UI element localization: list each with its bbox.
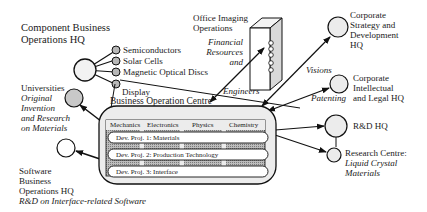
label-line: Invention [21,103,70,113]
title-line: Operations [193,23,248,33]
title-line: Operations HQ [21,34,110,46]
discipline-mechanics: Mechanics [110,120,140,130]
title-line: Office Imaging [193,13,248,23]
product-solar-cells: Solar Cells [123,56,163,66]
discipline-electronics: Electronics [147,120,179,130]
label-line: Corporate [350,10,399,20]
discipline-physics: Physics [192,120,213,130]
label-line: R&D on Interface-related Software [19,196,146,206]
universities-label: Universities Original Invention and Rese… [21,83,70,133]
flow-line: and [205,57,243,67]
legal-node [330,75,348,93]
flow-patenting: Patenting [311,93,346,103]
label-line: Research Centre: [345,148,407,158]
flow-line: Resources [205,47,243,57]
component-hq-title: Component Business Operations HQ [21,22,110,46]
label-line: Corporate [353,73,404,83]
research-centre-label: Research Centre: Liquid Crystal Material… [345,148,407,178]
label-line: Original [21,93,70,103]
label-line: Operations HQ [19,186,146,196]
rd-hq-label: R&D HQ [353,121,388,131]
label-line: Intellectual [353,83,404,93]
label-line: on Materials [21,123,70,133]
product-semiconductors: Semiconductors [123,45,181,55]
label-line: Strategy and [350,20,399,30]
label-line: HQ [350,40,399,50]
label-line: Business [19,176,146,186]
label-line: Materials [345,168,407,178]
project-3: Dev. Proj. 3: Interface [116,167,178,177]
strategy-label: Corporate Strategy and Development HQ [350,10,399,50]
label-line: Universities [21,83,70,93]
strategy-node [328,17,348,37]
project-1: Dev. Proj. 1: Materials [116,133,180,143]
office-imaging-title: Office Imaging Operations [193,13,248,33]
flow-visions: Visions [306,65,332,75]
label-line: and Legal HQ [353,93,404,103]
product-mo-discs: Magnetic Optical Discs [123,67,208,77]
label-line: and Research [21,113,70,123]
label-line: Liquid Crystal [345,158,407,168]
flow-engineers: Engineers [223,86,260,96]
flow-financial: Financial Resources and [205,37,243,67]
research-centre-node [327,148,341,162]
label-line: Development [350,30,399,40]
rd-hq-node [325,115,347,137]
flow-line: Financial [205,37,243,47]
project-2: Dev. Proj. 2: Production Technology [116,150,218,160]
title-line: Component Business [21,22,110,34]
legal-label: Corporate Intellectual and Legal HQ [353,73,404,103]
centre-title: Business Operation Centre [110,96,212,106]
office-building-icon [250,18,282,90]
software-hq-node [57,139,75,157]
discipline-chemistry: Chemistry [229,120,258,130]
